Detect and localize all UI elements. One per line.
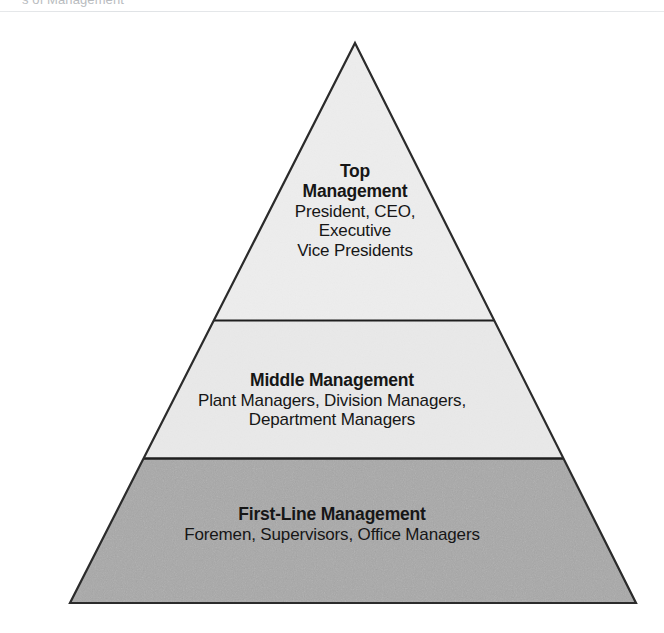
middle-management-roles: Plant Managers, Division Managers, Depar… bbox=[152, 391, 512, 430]
page-header-caption: s of Management bbox=[22, 0, 124, 7]
management-levels-pyramid: Top Management President, CEO, Executive… bbox=[0, 14, 664, 633]
first-line-management-title: First-Line Management bbox=[102, 505, 562, 525]
pyramid-label-first-line-management: First-Line Management Foremen, Superviso… bbox=[102, 505, 562, 544]
top-management-title: Top Management bbox=[232, 162, 478, 202]
pyramid-label-middle-management: Middle Management Plant Managers, Divisi… bbox=[152, 371, 512, 430]
pyramid-label-top-management: Top Management President, CEO, Executive… bbox=[232, 162, 478, 260]
page-header: s of Management bbox=[0, 0, 664, 14]
top-management-roles: President, CEO, Executive Vice President… bbox=[232, 202, 478, 260]
middle-management-title: Middle Management bbox=[152, 371, 512, 391]
header-divider-rule bbox=[0, 11, 664, 12]
first-line-management-roles: Foremen, Supervisors, Office Managers bbox=[102, 525, 562, 544]
